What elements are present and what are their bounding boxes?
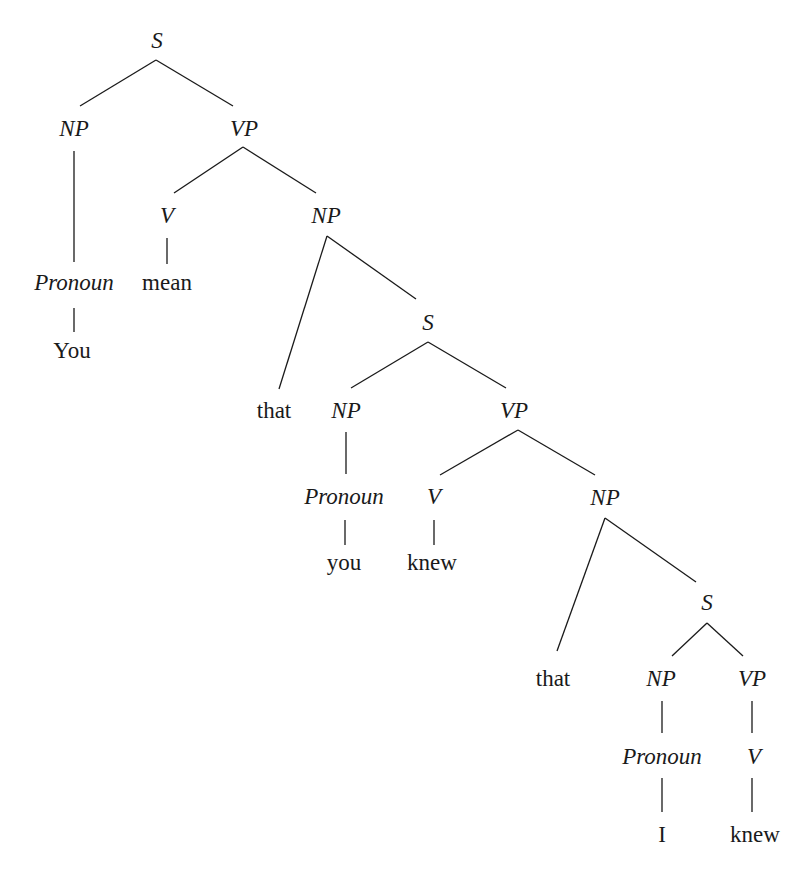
tree-edge-s1-np1 (80, 60, 156, 106)
tree-edge-vp2-np4 (518, 430, 595, 475)
word-leaf-w_that2: that (536, 666, 571, 691)
word-leaf-w_knew2: knew (730, 822, 780, 847)
category-node-vp2: VP (500, 398, 528, 423)
category-node-v2: V (427, 484, 444, 509)
word-leaf-w_i: I (658, 822, 666, 847)
category-node-pron1: Pronoun (33, 270, 114, 295)
word-leaf-w_knew1: knew (407, 550, 457, 575)
category-node-s2: S (422, 310, 434, 335)
tree-edge-vp2-v2 (440, 430, 518, 475)
syntax-tree-diagram: SNPVPPronounYouVmeanNPthatSNPPronounyouV… (0, 0, 806, 874)
tree-edge-np2-w_that1 (279, 236, 327, 389)
category-node-s1: S (151, 28, 163, 53)
category-node-vp3: VP (738, 666, 766, 691)
tree-edges (74, 60, 752, 812)
tree-edge-s3-np5 (672, 623, 707, 656)
tree-edge-np4-w_that2 (557, 518, 605, 651)
category-node-np4: NP (589, 485, 619, 510)
category-node-np5: NP (645, 666, 675, 691)
category-node-np2: NP (310, 203, 340, 228)
tree-edge-s3-vp3 (707, 623, 743, 656)
tree-edge-vp1-np2 (243, 147, 316, 193)
category-node-s3: S (701, 590, 713, 615)
word-leaf-w_you1: You (53, 338, 91, 363)
tree-edge-np4-s3 (605, 518, 696, 582)
category-node-vp1: VP (230, 116, 258, 141)
category-node-v3: V (747, 744, 764, 769)
category-node-pron3: Pronoun (621, 744, 702, 769)
tree-edge-s2-vp2 (428, 342, 506, 388)
tree-edge-s2-np3 (351, 342, 428, 388)
tree-nodes: SNPVPPronounYouVmeanNPthatSNPPronounyouV… (33, 28, 780, 847)
tree-edge-s1-vp1 (156, 60, 233, 106)
tree-edge-vp1-v1 (174, 147, 243, 193)
category-node-v1: V (160, 203, 177, 228)
tree-edge-np2-s2 (327, 236, 416, 299)
word-leaf-w_you2: you (327, 550, 362, 575)
category-node-np1: NP (58, 116, 88, 141)
word-leaf-w_mean: mean (142, 270, 192, 295)
category-node-np3: NP (330, 398, 360, 423)
category-node-pron2: Pronoun (303, 484, 384, 509)
word-leaf-w_that1: that (257, 398, 292, 423)
